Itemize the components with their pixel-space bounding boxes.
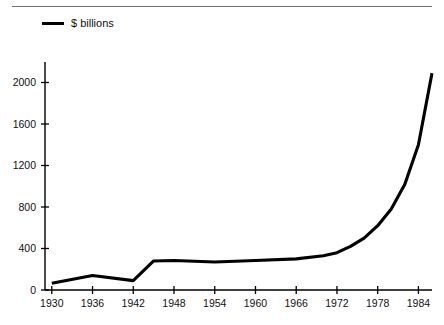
y-tick-label: 2000 xyxy=(13,76,37,88)
y-axis-tick-labels: 0400800120016002000 xyxy=(13,76,37,296)
x-tick-label: 1966 xyxy=(285,297,309,309)
x-tick-label: 1984 xyxy=(407,297,431,309)
x-tick-label: 1978 xyxy=(366,297,390,309)
chart-axes xyxy=(45,62,432,290)
x-tick-label: 1936 xyxy=(81,297,105,309)
y-tick-label: 800 xyxy=(18,201,36,213)
x-axis-tick-labels: 1930193619421948195419601966197219781984 xyxy=(40,297,430,309)
y-tick-label: 1600 xyxy=(13,118,37,130)
x-tick-label: 1948 xyxy=(162,297,186,309)
x-tick-label: 1954 xyxy=(203,297,227,309)
x-tick-label: 1960 xyxy=(244,297,268,309)
x-tick-label: 1972 xyxy=(325,297,349,309)
chart-figure: $ billions 0400800120016002000 193019361… xyxy=(0,0,444,325)
y-tick-label: 1200 xyxy=(13,159,37,171)
line-chart-plot: 0400800120016002000 19301936194219481954… xyxy=(0,0,444,325)
x-tick-label: 1942 xyxy=(122,297,146,309)
data-series-line xyxy=(52,73,432,283)
x-tick-label: 1930 xyxy=(40,297,64,309)
y-tick-label: 400 xyxy=(18,242,36,254)
y-tick-label: 0 xyxy=(30,284,36,296)
